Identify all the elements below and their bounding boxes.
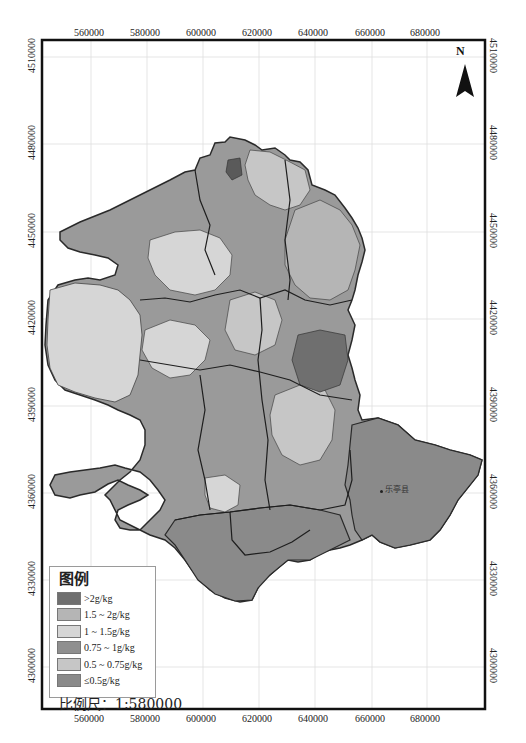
x-tick-label: 660000	[355, 27, 385, 38]
y-tick-label: 4360000	[26, 474, 37, 509]
place-marker-laoting	[380, 490, 383, 493]
north-label: N	[456, 44, 465, 59]
legend-label: 0.5 ~ 0.75g/kg	[84, 659, 142, 670]
legend-title: 图例	[59, 571, 150, 587]
y-tick-label: 4360000	[488, 474, 499, 509]
y-tick-label: 4330000	[488, 561, 499, 596]
y-tick-label: 4450000	[488, 213, 499, 248]
x-tick-label: 620000	[242, 713, 272, 724]
y-tick-label: 4480000	[26, 125, 37, 160]
y-tick-label: 4420000	[488, 300, 499, 335]
legend: 图例 >2g/kg 1.5 ~ 2g/kg 1 ~ 1.5g/kg 0.75 ~…	[49, 566, 156, 698]
legend-item: >2g/kg	[57, 590, 150, 607]
region-laoting	[345, 418, 482, 548]
x-tick-label: 640000	[298, 27, 328, 38]
legend-swatch	[57, 641, 81, 654]
legend-item: 0.75 ~ 1g/kg	[57, 640, 150, 657]
y-tick-label: 4390000	[488, 387, 499, 422]
legend-swatch	[57, 625, 81, 638]
x-tick-label: 600000	[186, 713, 216, 724]
x-tick-label: 640000	[298, 713, 328, 724]
x-tick-label: 600000	[186, 27, 216, 38]
x-tick-label: 680000	[410, 713, 440, 724]
legend-label: 1.5 ~ 2g/kg	[84, 609, 130, 620]
legend-item: 1.5 ~ 2g/kg	[57, 607, 150, 624]
legend-swatch	[57, 658, 81, 671]
y-tick-label: 4450000	[26, 213, 37, 248]
y-tick-label: 4390000	[26, 387, 37, 422]
place-label-laoting: 乐亭县	[385, 483, 409, 494]
y-tick-label: 4510000	[488, 38, 499, 73]
y-tick-label: 4510000	[26, 38, 37, 73]
legend-item: 1 ~ 1.5g/kg	[57, 623, 150, 640]
y-tick-label: 4300000	[488, 648, 499, 683]
legend-label: 0.75 ~ 1g/kg	[84, 642, 135, 653]
legend-label: 1 ~ 1.5g/kg	[84, 626, 130, 637]
legend-label: >2g/kg	[84, 593, 112, 604]
legend-swatch	[57, 592, 81, 605]
x-tick-label: 660000	[355, 713, 385, 724]
x-tick-label: 680000	[410, 27, 440, 38]
y-tick-label: 4330000	[26, 561, 37, 596]
x-tick-label: 580000	[130, 27, 160, 38]
legend-swatch	[57, 674, 81, 687]
scale-label: 比例尺：1:580000	[59, 693, 182, 713]
x-tick-label: 580000	[130, 713, 160, 724]
legend-label: ≤0.5g/kg	[84, 675, 120, 686]
x-tick-label: 560000	[74, 713, 104, 724]
legend-item: 0.5 ~ 0.75g/kg	[57, 656, 150, 673]
region-center-light-2	[225, 292, 282, 355]
legend-swatch	[57, 608, 81, 621]
x-tick-label: 560000	[74, 27, 104, 38]
y-tick-label: 4480000	[488, 125, 499, 160]
y-tick-label: 4300000	[26, 648, 37, 683]
x-tick-label: 620000	[242, 27, 272, 38]
legend-item: ≤0.5g/kg	[57, 673, 150, 690]
y-tick-label: 4420000	[26, 300, 37, 335]
region-west-light	[47, 283, 142, 402]
north-arrow-icon	[456, 64, 474, 97]
region-dark-1	[292, 330, 348, 392]
